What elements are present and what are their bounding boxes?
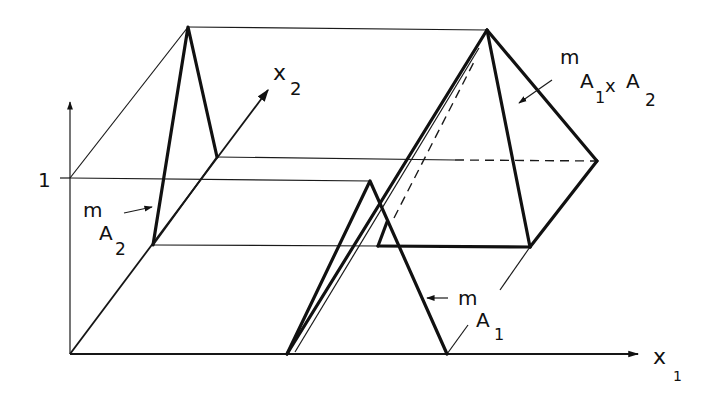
svg-text:A: A [99, 221, 113, 245]
mA1-label: m A 1 [458, 286, 504, 344]
svg-text:1: 1 [494, 325, 504, 344]
svg-text:A: A [626, 69, 640, 93]
svg-text:A: A [476, 308, 490, 332]
svg-text:m: m [458, 286, 477, 310]
svg-text:x: x [273, 60, 286, 85]
svg-text:m: m [83, 198, 102, 222]
svg-text:2: 2 [115, 239, 126, 259]
svg-text:x: x [653, 344, 666, 369]
tick-one-label: 1 [38, 168, 51, 192]
svg-text:A: A [580, 69, 594, 93]
svg-text:2: 2 [290, 78, 301, 99]
svg-text:m: m [560, 45, 579, 69]
x2-axis-label: x 2 [273, 60, 301, 99]
mA1xA2-label: m A 1 x A 2 [560, 45, 656, 110]
svg-text:1: 1 [673, 368, 682, 384]
svg-text:2: 2 [645, 90, 656, 110]
label-pointers [124, 80, 552, 298]
svg-text:x: x [605, 75, 616, 96]
mA2-label: m A 2 [83, 198, 126, 259]
fuzzy-cartesian-product-diagram: 1 x 2 x 1 m A 2 m A 1 m A 1 x A 2 [0, 0, 711, 397]
membership-mA1xA2-pyramid [287, 30, 597, 354]
svg-text:1: 1 [595, 88, 605, 107]
x1-axis-label: x 1 [653, 344, 682, 384]
membership-mA1 [287, 181, 447, 354]
